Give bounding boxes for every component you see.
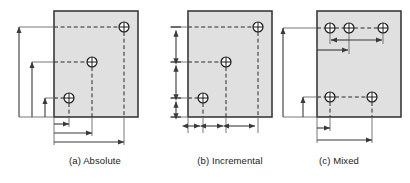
hole-top-left [325, 23, 335, 33]
hole-top-middle [344, 23, 354, 33]
vertical-dimensions-absolute [19, 27, 45, 117]
hole-bottom-left [325, 92, 335, 102]
hole-middle [87, 57, 97, 67]
hole-middle [221, 57, 231, 67]
figure-dimensioning-modes: (a) Absolute (b) Incremental (c) Mixed [0, 0, 410, 183]
panel-mixed [283, 11, 401, 143]
caption-panel-mixed: (c) Mixed [268, 155, 410, 166]
panel-incremental [170, 11, 272, 133]
hole-top-right [253, 22, 263, 32]
panel-absolute [19, 11, 138, 145]
hole-bottom-right [367, 92, 377, 102]
vertical-dimensions-mixed [283, 28, 303, 117]
hole-bottom-left [64, 93, 74, 103]
horizontal-dimensions-mixed [317, 128, 372, 140]
hole-top-right [378, 23, 388, 33]
vertical-dimension-chain-incremental [171, 27, 181, 117]
hole-top-right [119, 22, 129, 32]
hole-bottom-left [198, 93, 208, 103]
horizontal-dimensions-absolute [54, 124, 124, 142]
